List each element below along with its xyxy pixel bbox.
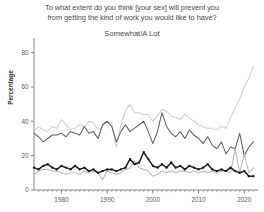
series-marker <box>138 161 140 163</box>
plot-area: 02040608019801990200020102020 <box>0 0 264 212</box>
series-marker <box>202 167 204 169</box>
series-marker <box>143 151 145 153</box>
series-marker <box>243 170 245 172</box>
series-marker <box>124 167 126 169</box>
series-marker <box>248 175 250 177</box>
tick-label-layer: 02040608019801990200020102020 <box>21 49 251 203</box>
series-marker <box>156 167 158 169</box>
y-tick-label: 20 <box>21 152 29 159</box>
series-marker <box>220 168 222 170</box>
series-marker <box>111 168 113 170</box>
series-marker <box>33 167 35 169</box>
series-marker <box>211 168 213 170</box>
series-marker <box>47 163 49 165</box>
y-tick-label: 0 <box>25 186 29 193</box>
series-marker <box>197 168 199 170</box>
series-marker <box>229 167 231 169</box>
x-tick-label: 1990 <box>100 196 115 203</box>
x-tick-label: 1980 <box>54 196 69 203</box>
series-marker <box>179 165 181 167</box>
x-tick-label: 2020 <box>237 196 252 203</box>
x-tick-label: 2010 <box>191 196 206 203</box>
series-marker <box>170 161 172 163</box>
series-marker <box>56 168 58 170</box>
series-marker <box>207 163 209 165</box>
series-line-dark-gray-middle <box>34 113 253 156</box>
series-marker <box>239 172 241 174</box>
series-marker <box>79 168 81 170</box>
y-tick-label: 60 <box>21 83 29 90</box>
series-marker <box>152 165 154 167</box>
series-marker <box>184 168 186 170</box>
series-marker <box>101 170 103 172</box>
y-tick-label: 80 <box>21 49 29 56</box>
series-marker <box>115 170 117 172</box>
series-line-black-lower <box>34 152 253 176</box>
series-marker <box>37 168 39 170</box>
series-marker <box>133 163 135 165</box>
series-marker <box>120 168 122 170</box>
series-marker <box>193 167 195 169</box>
series-marker <box>74 165 76 167</box>
series-marker <box>42 165 44 167</box>
series-marker <box>83 167 85 169</box>
x-tick-label: 2000 <box>146 196 161 203</box>
series-marker <box>165 167 167 169</box>
series-marker <box>60 165 62 167</box>
series-marker <box>65 167 67 169</box>
series-marker <box>161 163 163 165</box>
series-marker <box>88 170 90 172</box>
series-marker <box>106 168 108 170</box>
series-marker <box>175 167 177 169</box>
series-marker <box>147 158 149 160</box>
series-layer <box>33 66 255 179</box>
series-marker <box>129 158 131 160</box>
series-marker <box>188 165 190 167</box>
series-marker <box>92 168 94 170</box>
series-marker <box>252 175 254 177</box>
series-marker <box>69 168 71 170</box>
y-tick-label: 40 <box>21 118 29 125</box>
series-marker <box>97 172 99 174</box>
series-marker <box>225 170 227 172</box>
series-marker <box>234 170 236 172</box>
series-marker <box>51 167 53 169</box>
series-marker <box>216 170 218 172</box>
chart-figure: To what extent do you think [your sex] w… <box>0 0 264 212</box>
